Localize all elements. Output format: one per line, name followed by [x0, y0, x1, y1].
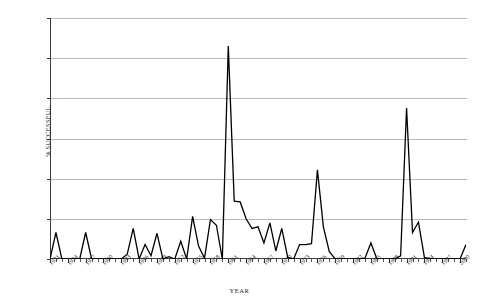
- series-line-group: [50, 18, 466, 259]
- x-axis-title: YEAR: [0, 287, 479, 294]
- x-axis-tick-labels: 1931193419371940194319461949195219551958…: [50, 262, 479, 302]
- series-line: [50, 46, 466, 259]
- chart-container: 00.050.10.150.20.250.3 % SUCCESSFUL 1931…: [0, 0, 479, 306]
